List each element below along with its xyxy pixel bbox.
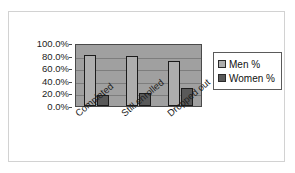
legend-swatch-icon [218,60,226,68]
chart-frame: 100.0%80.0%60.0%40.0%20.0%0.0% Completed… [8,11,285,162]
y-axis-tick-mark [69,94,72,95]
y-axis-tick-label: 80.0% [42,52,69,62]
legend-label: Men % [229,59,260,70]
y-axis-tick-label: 100.0% [37,39,69,49]
legend-item[interactable]: Women % [218,71,275,85]
y-axis: 100.0%80.0%60.0%40.0%20.0%0.0% [17,39,72,112]
legend-label: Women % [229,73,275,84]
y-axis-tick-label: 0.0% [47,102,69,112]
chart-legend: Men %Women % [213,52,282,90]
y-axis-tick-label: 40.0% [42,77,69,87]
legend-swatch-icon [218,74,226,82]
y-axis-tick-mark [69,82,72,83]
x-axis: CompletedStill enrolledDropped out [69,108,219,164]
legend-item[interactable]: Men % [218,57,275,71]
y-axis-tick-mark [69,69,72,70]
y-axis-tick-label: 20.0% [42,89,69,99]
y-axis-tick-label: 60.0% [42,64,69,74]
y-axis-tick-mark [69,57,72,58]
y-axis-tick-mark [69,44,72,45]
